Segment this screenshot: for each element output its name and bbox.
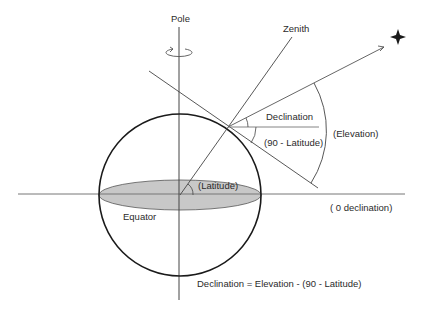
zenith-label: Zenith <box>283 23 309 34</box>
zero-declination-label: ( 0 declination) <box>330 202 392 213</box>
colatitude-angle-arc <box>251 127 256 143</box>
horizon-tangent <box>149 71 318 188</box>
celestial-declination-diagram: Pole Zenith Declination (90 - Latitude) … <box>0 0 424 314</box>
pole-label: Pole <box>171 13 190 24</box>
star-icon <box>390 29 406 45</box>
elevation-label: (Elevation) <box>333 128 378 139</box>
elevation-angle-arc <box>311 83 326 183</box>
colatitude-label: (90 - Latitude) <box>264 137 323 148</box>
latitude-label: (Latitude) <box>198 180 238 191</box>
formula-label: Declination = Elevation - (90 - Latitude… <box>197 278 362 289</box>
declination-angle-arc <box>246 118 248 127</box>
declination-label: Declination <box>266 111 313 122</box>
equator-label: Equator <box>123 211 156 222</box>
